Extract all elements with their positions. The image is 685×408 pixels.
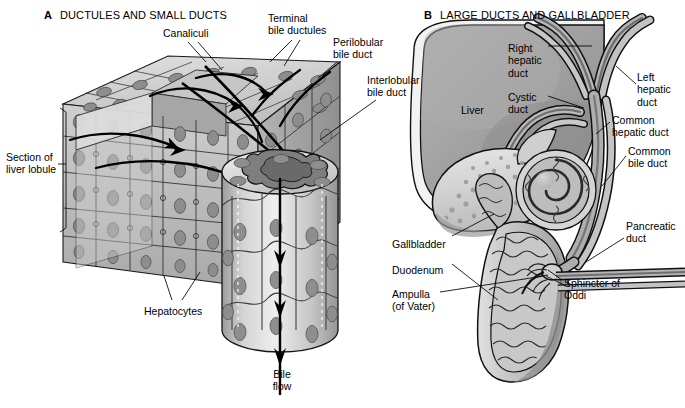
label-hepatocytes: Hepatocytes: [144, 305, 202, 317]
label-bile-flow-line-2: flow: [265, 380, 299, 392]
label-common-hepatic-duct-line-2: hepatic duct: [612, 126, 669, 138]
label-pancreatic-duct-line-1: Pancreatic: [626, 220, 676, 232]
label-terminal-bile-ductules: Terminal bile ductules: [268, 12, 326, 37]
label-section-of-liver-lobule-line-2: liver lobule: [6, 163, 56, 175]
panel-a-title: DUCTULES AND SMALL DUCTS: [60, 9, 227, 21]
label-terminal-bile-ductules-line-1: Terminal: [268, 12, 326, 24]
label-duodenum-line-1: Duodenum: [392, 264, 443, 276]
label-liver: Liver: [461, 104, 484, 116]
label-right-hepatic-duct-line-3: duct: [508, 67, 542, 79]
label-bile-flow-line-1: Bile: [265, 368, 299, 380]
label-sphincter-of-oddi: Sphincter of Oddi: [564, 277, 620, 302]
label-cystic-duct-line-1: Cystic: [508, 91, 537, 103]
label-section-of-liver-lobule: Section of liver lobule: [6, 151, 56, 176]
spiral-valve-coil: [516, 150, 596, 230]
label-sphincter-of-oddi-line-2: Oddi: [564, 289, 620, 301]
label-canaliculi-line-1: Canaliculi: [163, 27, 209, 39]
label-interlobular-bile-duct-line-1: Interlobular: [367, 74, 420, 86]
diagram-artwork: [0, 0, 685, 408]
label-ampulla-of-vater: Ampulla (of Vater): [392, 288, 435, 313]
label-right-hepatic-duct-line-1: Right: [508, 42, 542, 54]
label-section-of-liver-lobule-line-1: Section of: [6, 151, 56, 163]
label-perilobular-bile-duct-line-2: bile duct: [333, 48, 383, 60]
panel-b-letter: B: [424, 9, 432, 21]
label-perilobular-bile-duct-line-1: Perilobular: [333, 36, 383, 48]
label-gallbladder: Gallbladder: [392, 238, 446, 250]
label-perilobular-bile-duct: Perilobular bile duct: [333, 36, 383, 61]
panel-b-title: LARGE DUCTS AND GALLBLADDER: [440, 9, 630, 21]
panel-a-letter: A: [44, 9, 52, 21]
label-right-hepatic-duct-line-2: hepatic: [508, 54, 542, 66]
label-ampulla-of-vater-line-1: Ampulla: [392, 288, 435, 300]
label-common-bile-duct: Common bile duct: [628, 145, 671, 170]
label-common-hepatic-duct-line-1: Common: [612, 114, 669, 126]
label-left-hepatic-duct-line-1: Left: [637, 71, 671, 83]
label-cystic-duct-line-2: duct: [508, 103, 537, 115]
label-cystic-duct: Cystic duct: [508, 91, 537, 116]
label-interlobular-bile-duct: Interlobular bile duct: [367, 74, 420, 99]
label-duodenum: Duodenum: [392, 264, 443, 276]
label-liver-line-1: Liver: [461, 104, 484, 116]
biliary-system-figure: A DUCTULES AND SMALL DUCTS B LARGE DUCTS…: [0, 0, 685, 408]
label-terminal-bile-ductules-line-2: bile ductules: [268, 24, 326, 36]
label-interlobular-bile-duct-line-2: bile duct: [367, 86, 420, 98]
label-left-hepatic-duct-line-3: duct: [637, 96, 671, 108]
label-canaliculi: Canaliculi: [163, 27, 209, 39]
label-bile-flow: Bile flow: [265, 368, 299, 393]
label-common-hepatic-duct: Common hepatic duct: [612, 114, 669, 139]
label-right-hepatic-duct: Right hepatic duct: [508, 42, 542, 79]
label-gallbladder-line-1: Gallbladder: [392, 238, 446, 250]
label-left-hepatic-duct: Left hepatic duct: [637, 71, 671, 108]
interlobular-bile-duct-cylinder: [222, 150, 344, 395]
label-pancreatic-duct-line-2: duct: [626, 232, 676, 244]
label-sphincter-of-oddi-line-1: Sphincter of: [564, 277, 620, 289]
label-pancreatic-duct: Pancreatic duct: [626, 220, 676, 245]
label-hepatocytes-line-1: Hepatocytes: [144, 305, 202, 317]
label-ampulla-of-vater-line-2: (of Vater): [392, 300, 435, 312]
label-left-hepatic-duct-line-2: hepatic: [637, 83, 671, 95]
label-common-bile-duct-line-2: bile duct: [628, 157, 671, 169]
label-common-bile-duct-line-1: Common: [628, 145, 671, 157]
